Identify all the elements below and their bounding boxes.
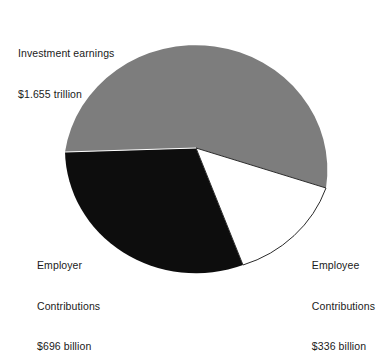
slice-label-investment-value: $1.655 trillion <box>18 88 114 102</box>
slice-label-employer-name-2: Contributions <box>37 300 100 314</box>
slice-label-employee-value: $336 billion <box>312 340 375 354</box>
slice-label-employer-contributions: Employer Contributions $696 billion <box>37 232 100 355</box>
slice-label-investment-earnings: Investment earnings $1.655 trillion <box>18 20 114 128</box>
slice-label-investment-name: Investment earnings <box>18 47 114 61</box>
slice-label-employee-name-1: Employee <box>312 259 375 273</box>
slice-label-employee-name-2: Contributions <box>312 300 375 314</box>
slice-label-employer-name-1: Employer <box>37 259 100 273</box>
slice-label-employee-contributions: Employee Contributions $336 billion <box>312 232 375 355</box>
slice-label-employer-value: $696 billion <box>37 340 100 354</box>
